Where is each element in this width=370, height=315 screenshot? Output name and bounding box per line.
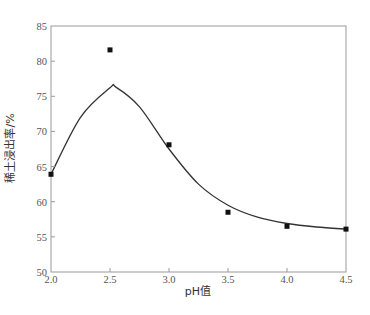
- data-point-square-marker: [285, 224, 290, 229]
- y-tick-label: 60: [37, 197, 48, 208]
- x-tick-label: 2.0: [44, 274, 57, 285]
- y-axis-title: 稀土浸出率/%: [3, 113, 17, 182]
- y-tick-label: 55: [37, 232, 48, 243]
- data-point-square-marker: [167, 142, 172, 147]
- y-tick-label: 80: [37, 56, 48, 67]
- x-axis: 2.02.53.03.54.04.5: [44, 268, 352, 285]
- data-point-square-marker: [108, 47, 113, 52]
- x-tick-label: 2.5: [103, 274, 116, 285]
- data-point-square-marker: [344, 227, 349, 232]
- plot-area: [49, 26, 349, 272]
- y-tick-label: 70: [37, 126, 48, 137]
- y-tick-label: 75: [37, 91, 48, 102]
- fitted-curve: [51, 84, 346, 229]
- y-axis: 5055606570758085: [37, 21, 56, 278]
- leaching-rate-vs-ph-chart: 5055606570758085 2.02.53.03.54.04.5 pH值 …: [0, 0, 370, 315]
- y-tick-label: 85: [37, 21, 48, 32]
- x-axis-title: pH值: [185, 285, 211, 298]
- data-point-square-marker: [226, 210, 231, 215]
- plot-frame: [51, 26, 346, 272]
- data-point-square-marker: [49, 172, 54, 177]
- x-tick-label: 4.5: [339, 274, 352, 285]
- x-tick-label: 3.5: [221, 274, 234, 285]
- x-tick-label: 3.0: [162, 274, 175, 285]
- y-tick-label: 65: [37, 162, 48, 173]
- x-tick-label: 4.0: [280, 274, 293, 285]
